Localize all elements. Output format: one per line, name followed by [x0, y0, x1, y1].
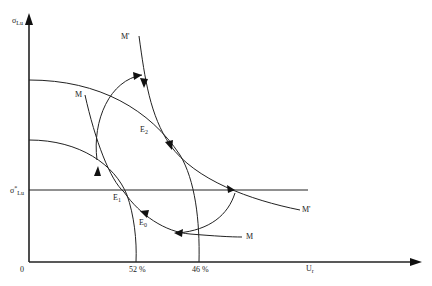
sigma-subscript: Lu [17, 190, 24, 196]
arrow-icon [174, 229, 183, 237]
label-m-prime-top: M' [121, 33, 130, 41]
x-tick-46: 46 % [192, 266, 209, 274]
x-tick-52: 52 % [129, 266, 146, 274]
x-axis-subscript: r [312, 268, 314, 274]
label-m-lower: M [246, 233, 253, 241]
arrow-icon [165, 140, 173, 150]
e2-subscript: 2 [145, 129, 148, 135]
y-axis-label: σLu [12, 17, 23, 26]
point-e1: E1 [113, 194, 121, 203]
y-axis-arrow-icon [25, 13, 33, 25]
label-m-prime-right: M' [302, 206, 311, 214]
x-axis-label: Ur [306, 265, 314, 274]
arrow-icon [227, 185, 235, 193]
x-axis-arrow-icon [410, 258, 422, 266]
phase-diagram: σLu σ*Lu 0 52 % 46 % Ur M' M M' M E2 E1 … [0, 0, 432, 286]
curve-46-percent [29, 80, 199, 262]
diagram-canvas [0, 0, 432, 286]
sigma-star-label: σ*Lu [10, 185, 24, 196]
loop-arc-upper [96, 75, 142, 160]
curve-m [85, 95, 242, 237]
loop-arc-lower [178, 193, 235, 233]
point-e0: E0 [139, 219, 147, 228]
origin-label: 0 [20, 266, 24, 274]
curve-m-prime [139, 36, 300, 210]
label-m-upper-left: M [75, 91, 82, 99]
arrow-icon [94, 166, 101, 176]
point-e2: E2 [140, 126, 148, 135]
e1-subscript: 1 [118, 197, 121, 203]
e0-subscript: 0 [144, 222, 147, 228]
y-axis-subscript: Lu [16, 20, 23, 26]
